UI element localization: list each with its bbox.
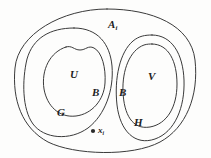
label-left-outer-set-G: G [57,107,65,118]
label-right-inner-set-V: V [148,71,155,82]
label-outer-set-A: Ai [108,19,117,30]
label-right-outer-set-H: H [134,117,143,128]
point-marker-x-i [91,129,95,133]
set-diagram-figure: Ai U B B V G H xi [0,0,211,158]
label-point-x-subscript: i [103,130,105,136]
label-left-boundary-B: B [92,87,99,98]
label-outer-set-A-subscript: i [115,24,117,31]
diagram-canvas [0,0,211,158]
label-point-x-base: x [98,125,103,135]
right-outer-set-boundary-H [116,35,184,141]
label-point-x-i: xi [98,126,104,135]
label-left-inner-set-U: U [70,69,78,80]
left-inner-set-boundary-U [43,47,105,117]
left-outer-set-boundary-G [24,28,112,137]
label-right-boundary-B: B [119,87,126,98]
right-inner-set-boundary-V [123,44,177,127]
